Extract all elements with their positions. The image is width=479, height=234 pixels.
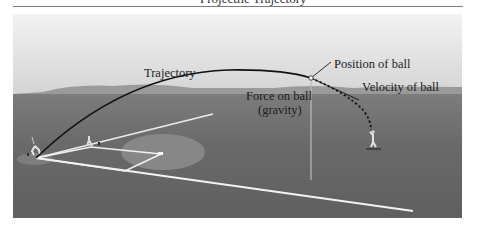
figure-title-cut-off: Projectile Trajectory — [200, 0, 307, 7]
ball — [309, 76, 313, 80]
field — [13, 94, 462, 218]
label-force-on-ball: Force on ball — [246, 90, 312, 103]
label-velocity-of-ball: Velocity of ball — [362, 81, 439, 94]
first-base — [158, 152, 163, 155]
label-trajectory: Trajectory — [144, 67, 196, 80]
label-position-of-ball: Position of ball — [334, 58, 410, 71]
baseball-scene: Trajectory Position of ball Velocity of … — [13, 14, 462, 218]
scene-illustration — [13, 14, 462, 218]
label-gravity: (gravity) — [258, 104, 302, 117]
